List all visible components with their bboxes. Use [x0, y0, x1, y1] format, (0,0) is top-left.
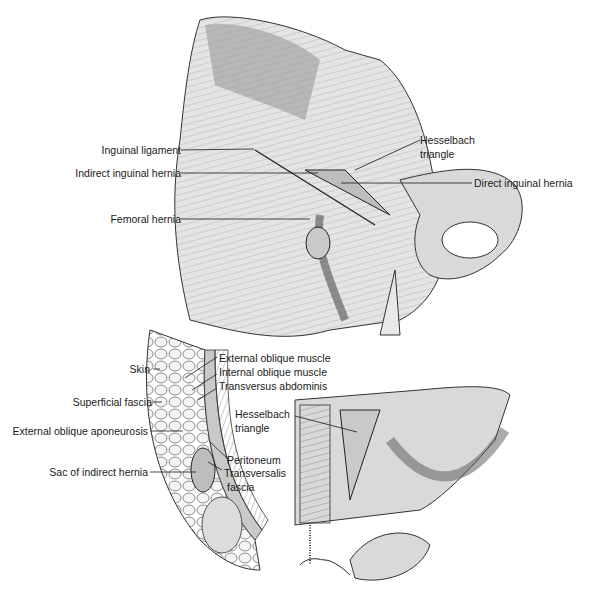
label-inguinal-ligament: Inguinal ligament	[102, 144, 181, 156]
label-indirect-inguinal-hernia: Indirect inguinal hernia	[75, 167, 181, 179]
label-internal-oblique-muscle: Internal oblique muscle	[219, 366, 327, 378]
label-external-oblique-aponeurosis: External oblique aponeurosis	[13, 425, 148, 437]
label-hesselbach-bottom-line2: triangle	[235, 422, 269, 434]
laparoscopic-view-drawing	[295, 387, 510, 580]
label-external-oblique-muscle: External oblique muscle	[219, 352, 330, 364]
anatomy-illustration	[0, 0, 593, 598]
label-skin: Skin	[130, 363, 150, 375]
label-femoral-hernia: Femoral hernia	[110, 213, 181, 225]
label-sac-of-indirect-hernia: Sac of indirect hernia	[49, 466, 148, 478]
label-transversalis-fascia-line1: Transversalis	[224, 467, 286, 479]
label-transversalis-fascia-line2: fascia	[227, 481, 254, 493]
label-hesselbach-top-line1: Hesselbach	[420, 134, 475, 146]
label-superficial-fascia: Superficial fascia	[73, 396, 152, 408]
label-direct-inguinal-hernia: Direct inguinal hernia	[474, 177, 573, 189]
top-anatomy-drawing	[175, 17, 522, 336]
label-transversus-abdominis: Transversus abdominis	[219, 380, 327, 392]
label-hesselbach-top-line2: triangle	[420, 148, 454, 160]
label-peritoneum: Peritoneum	[227, 454, 281, 466]
label-hesselbach-bottom-line1: Hesselbach	[235, 408, 290, 420]
